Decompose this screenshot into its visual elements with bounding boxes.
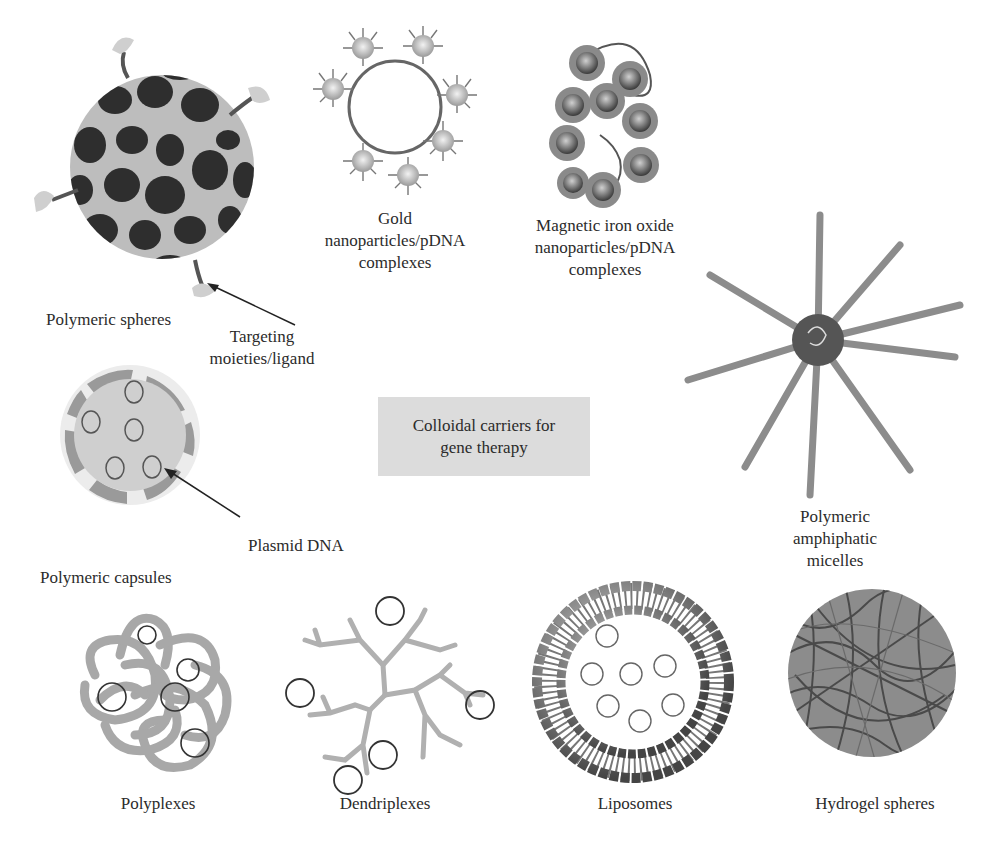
magnetic-iron-oxide-illustration xyxy=(545,35,665,215)
label-line: amphiphatic xyxy=(770,528,900,550)
hydrogel-sphere-illustration xyxy=(785,585,960,760)
label-polyplexes: Polyplexes xyxy=(108,793,208,815)
polymeric-micelle-illustration xyxy=(670,205,970,505)
polymeric-sphere-illustration xyxy=(20,30,290,300)
title-line: Colloidal carriers for xyxy=(413,415,556,437)
plasmid-arrow xyxy=(160,465,250,525)
label-hydrogel-spheres: Hydrogel spheres xyxy=(795,793,955,815)
label-line: micelles xyxy=(770,550,900,572)
label-line: nanoparticles/pDNA xyxy=(310,230,480,252)
title-line: gene therapy xyxy=(413,437,556,459)
label-polymeric-micelles: Polymeric amphiphatic micelles xyxy=(770,506,900,572)
polyplex-illustration xyxy=(75,605,245,785)
label-line: nanoparticles/pDNA xyxy=(515,237,695,259)
label-plasmid-dna: Plasmid DNA xyxy=(248,535,344,557)
label-line: Gold xyxy=(310,208,480,230)
label-gold-nanoparticles: Gold nanoparticles/pDNA complexes xyxy=(310,208,480,274)
label-line: Polymeric spheres xyxy=(46,310,171,329)
gold-nanoparticle-illustration xyxy=(305,25,485,205)
label-line: Polymeric capsules xyxy=(40,568,172,587)
label-liposomes: Liposomes xyxy=(570,793,700,815)
label-line: Liposomes xyxy=(598,794,673,813)
label-polymeric-capsules: Polymeric capsules xyxy=(40,567,172,589)
targeting-arrow xyxy=(205,280,305,330)
label-line: complexes xyxy=(310,252,480,274)
label-polymeric-spheres: Polymeric spheres xyxy=(46,309,171,331)
label-magnetic-iron-oxide: Magnetic iron oxide nanoparticles/pDNA c… xyxy=(515,215,695,281)
liposome-illustration xyxy=(530,578,740,788)
label-line: complexes xyxy=(515,259,695,281)
label-line: Magnetic iron oxide xyxy=(515,215,695,237)
diagram-title-box: Colloidal carriers for gene therapy xyxy=(378,397,590,476)
label-line: moieties/ligand xyxy=(207,348,317,370)
label-line: Polymeric xyxy=(770,506,900,528)
label-line: Hydrogel spheres xyxy=(815,794,934,813)
label-line: Plasmid DNA xyxy=(248,536,344,555)
label-line: Targeting xyxy=(207,326,317,348)
label-line: Dendriplexes xyxy=(340,794,431,813)
label-targeting-moieties: Targeting moieties/ligand xyxy=(207,326,317,370)
label-line: Polyplexes xyxy=(121,794,196,813)
dendriplex-illustration xyxy=(275,585,505,800)
label-dendriplexes: Dendriplexes xyxy=(320,793,450,815)
